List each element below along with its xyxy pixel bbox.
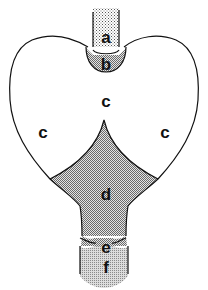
label-d: d xyxy=(101,185,111,204)
anatomical-diagram: a b c c c d e f xyxy=(0,0,208,290)
label-f: f xyxy=(103,258,109,277)
label-a: a xyxy=(101,28,111,47)
label-e: e xyxy=(101,238,110,257)
label-c-top: c xyxy=(101,92,110,111)
label-c-right: c xyxy=(160,123,169,142)
label-b: b xyxy=(101,55,111,74)
label-c-left: c xyxy=(38,123,47,142)
